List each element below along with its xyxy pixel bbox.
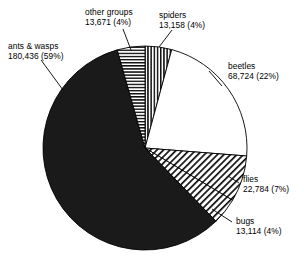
label-other-groups-value: 13,671 (4%) [85,17,133,27]
label-bugs: bugs 13,114 (4%) [236,216,282,236]
label-other-groups: other groups 13,671 (4%) [85,7,133,27]
label-bugs-name: bugs [236,216,282,226]
pie-slices [43,46,247,250]
label-ants-and-wasps: ants & wasps 180,436 (59%) [8,41,64,61]
label-bugs-value: 13,114 (4%) [236,226,282,236]
pie-chart: ants & wasps 180,436 (59%) other groups … [0,0,304,263]
label-beetles-name: beetles [228,61,279,71]
label-flies: flies 22,784 (7%) [243,174,289,194]
leader-line-ants-and-wasps [41,60,63,90]
label-beetles-value: 68,724 (22%) [228,71,279,81]
leader-line-other-groups [123,29,131,50]
label-spiders-name: spiders [159,10,205,20]
label-beetles: beetles 68,724 (22%) [228,61,279,81]
label-spiders: spiders 13,158 (4%) [159,10,205,30]
label-ants-and-wasps-name: ants & wasps [8,41,64,51]
label-flies-name: flies [243,174,289,184]
leader-line-spiders [159,30,172,47]
label-flies-value: 22,784 (7%) [243,184,289,194]
label-other-groups-name: other groups [85,7,133,17]
label-spiders-value: 13,158 (4%) [159,20,205,30]
label-ants-and-wasps-value: 180,436 (59%) [8,51,64,61]
